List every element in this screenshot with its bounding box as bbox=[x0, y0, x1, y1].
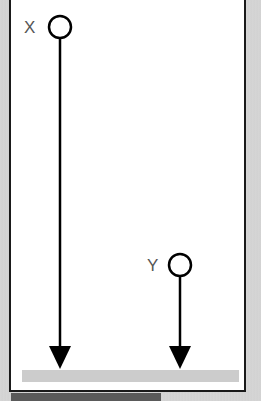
ball-y-icon bbox=[169, 254, 191, 276]
object-x bbox=[49, 16, 71, 369]
drop-diagram bbox=[0, 0, 261, 401]
ball-x-icon bbox=[49, 16, 71, 38]
label-y: Y bbox=[147, 257, 158, 274]
label-x: X bbox=[24, 19, 35, 36]
arrow-x-head-icon bbox=[49, 346, 71, 369]
object-y bbox=[169, 254, 191, 369]
ground-bar bbox=[22, 370, 239, 382]
arrow-y-head-icon bbox=[169, 346, 191, 369]
